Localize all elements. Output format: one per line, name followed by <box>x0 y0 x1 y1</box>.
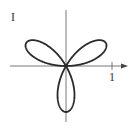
rose-curve-plot <box>0 0 137 130</box>
x-tick-label: 1 <box>109 71 115 83</box>
x-axis-arrow-icon <box>121 64 128 69</box>
y-tick-label: I <box>11 11 15 23</box>
